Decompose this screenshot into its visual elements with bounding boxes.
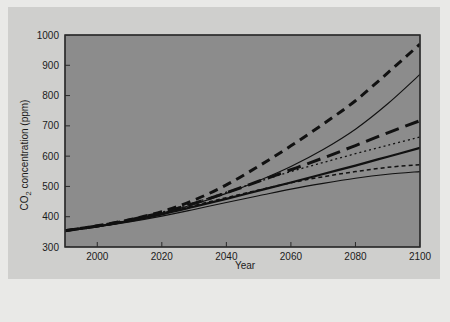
y-tick-label: 1000	[37, 30, 60, 41]
x-tick-label: 2020	[151, 251, 174, 262]
co2-concentration-line-chart: 200020202040206020802100 300400500600700…	[8, 7, 440, 279]
x-tick-label: 2000	[86, 251, 109, 262]
caption-strip	[0, 286, 450, 322]
y-tick-label: 600	[42, 151, 59, 162]
x-axis-title: Year	[235, 260, 256, 271]
y-tick-label: 800	[42, 90, 59, 101]
y-tick-label: 400	[42, 211, 59, 222]
y-axis-title-rest: concentration (ppm)	[19, 100, 30, 192]
x-tick-label: 2100	[409, 251, 432, 262]
y-tick-label: 500	[42, 181, 59, 192]
x-tick-label: 2080	[344, 251, 367, 262]
x-tick-label: 2060	[280, 251, 303, 262]
y-tick-label: 700	[42, 120, 59, 131]
y-tick-label: 300	[42, 242, 59, 253]
y-tick-label: 900	[42, 60, 59, 71]
figure-panel: 200020202040206020802100 300400500600700…	[8, 7, 440, 279]
chart-container: 200020202040206020802100 300400500600700…	[8, 7, 440, 279]
y-axis-title-main: CO	[19, 195, 30, 210]
